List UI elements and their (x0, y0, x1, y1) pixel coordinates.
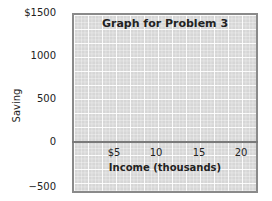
x-tick-5: $5 (108, 147, 121, 158)
y-tick-500: 500 (37, 94, 56, 104)
y-tick-1500: $1500 (24, 8, 56, 18)
y-tick-0: 0 (50, 137, 56, 147)
x-tick-10: 10 (150, 147, 163, 158)
x-tick-15: 15 (193, 147, 206, 158)
y-axis-label: Saving (11, 86, 22, 126)
y-tick-1000: 1000 (31, 51, 56, 61)
x-tick-20: 20 (235, 147, 248, 158)
y-tick-neg500: −500 (29, 182, 56, 192)
zero-axis-line (72, 141, 258, 143)
x-axis-label: Income (thousands) (72, 162, 258, 173)
chart-title: Graph for Problem 3 (72, 17, 258, 30)
